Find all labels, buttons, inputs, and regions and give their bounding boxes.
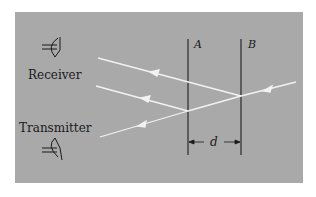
reflected-ray-b	[98, 58, 241, 96]
interferometer-diagram: Receiver Transmitter A B d	[0, 0, 316, 197]
incident-ray-continued	[188, 96, 241, 111]
arrow-left-icon	[189, 140, 194, 144]
reflected-a-arrow-icon	[141, 96, 150, 102]
separation-label: d	[210, 135, 218, 149]
transmitter-horn-icon	[42, 138, 62, 160]
receiver-label: Receiver	[28, 68, 82, 82]
rays	[96, 58, 296, 137]
incident-arrow-icon	[138, 121, 146, 127]
receiver-horn-icon	[42, 37, 60, 57]
transmitter-label: Transmitter	[19, 121, 92, 135]
transmitted-arrow-icon	[263, 86, 272, 92]
plate-a-label: A	[193, 38, 202, 51]
reflected-b-arrow-icon	[150, 70, 159, 76]
plate-b-label: B	[247, 38, 256, 51]
arrow-right-icon	[235, 140, 240, 144]
